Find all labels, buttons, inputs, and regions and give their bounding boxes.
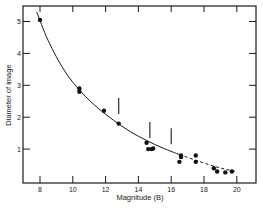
y-tick-label: 5: [17, 18, 21, 25]
data-point: [177, 160, 181, 164]
x-tick-label: 16: [167, 186, 175, 193]
x-tick-label: 14: [135, 186, 143, 193]
data-point: [38, 18, 42, 22]
data-point: [215, 169, 219, 173]
data-point: [194, 160, 198, 164]
data-point: [179, 155, 183, 159]
x-tick-label: 20: [233, 186, 241, 193]
fitted-curve-solid: [37, 12, 180, 155]
y-axis-right-ticks: [249, 22, 256, 150]
data-point: [144, 141, 148, 145]
data-point: [212, 166, 216, 170]
x-tick-label: 12: [102, 186, 110, 193]
data-point: [230, 169, 234, 173]
x-axis-title: Magnitude (B): [116, 193, 164, 202]
x-axis-top-ticks: [40, 6, 237, 12]
data-point: [117, 121, 121, 125]
x-axis-tick-labels: 8101214161820: [38, 186, 241, 193]
x-tick-label: 10: [69, 186, 77, 193]
vertical-markers: [119, 98, 171, 144]
data-point: [102, 109, 106, 113]
fitted-curve-dashed: [179, 155, 236, 172]
y-axis-ticks: [23, 22, 30, 150]
data-point: [151, 146, 155, 150]
x-tick-label: 8: [38, 186, 42, 193]
y-tick-label: 4: [17, 50, 21, 57]
y-tick-label: 2: [17, 114, 21, 121]
y-tick-label: 3: [17, 82, 21, 89]
y-axis-tick-labels: 12345: [17, 18, 21, 153]
x-axis-ticks: [40, 176, 237, 183]
data-points: [38, 18, 234, 175]
chart-figure: 8101214161820 12345 Magnitude (B) Diamet…: [0, 0, 263, 208]
plot-frame: [23, 6, 256, 183]
y-axis-title: Diameter of image: [4, 64, 13, 125]
data-point: [194, 153, 198, 157]
x-tick-label: 18: [200, 186, 208, 193]
data-point: [223, 170, 227, 174]
data-point: [77, 89, 81, 93]
y-tick-label: 1: [17, 146, 21, 153]
